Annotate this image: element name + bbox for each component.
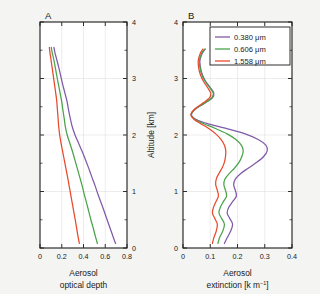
y-tick-label: 0 (174, 244, 178, 253)
shared-altitude-axis-label: Altitude [km] (146, 112, 156, 158)
y-tick-label: 4 (174, 18, 178, 27)
x-axis-label-bracket: ] (266, 280, 268, 290)
x-tick-label: 0 (38, 252, 42, 261)
x-tick-label: 0.6 (100, 252, 110, 261)
y-tick-label: 3 (174, 74, 178, 83)
y-axis-label: Altitude [km] (146, 112, 156, 158)
x-axis-label-line2: extinction [k m−1] (206, 280, 268, 290)
x-tick-label: 0 (181, 252, 185, 261)
y-tick-label: 3 (132, 74, 136, 83)
aerosol-profile-figure: 00.20.40.60.801234AAerosoloptical depth … (0, 0, 320, 294)
panel-label-b: B (188, 10, 194, 21)
x-axis-label-line2: optical depth (60, 280, 108, 290)
x-tick-label: 0.8 (122, 252, 132, 261)
x-axis-label-line1: Aerosol (223, 268, 252, 278)
x-axis-label-text: extinction [k m (206, 280, 260, 290)
y-tick-label: 2 (132, 131, 136, 140)
x-axis-label-line1: Aerosol (69, 268, 98, 278)
x-tick-label: 0.1 (205, 252, 215, 261)
y-tick-label: 2 (174, 131, 178, 140)
legend: 0.380 μm0.606 μm1.558 μm (210, 27, 290, 66)
y-tick-label: 1 (132, 187, 136, 196)
panel-a-optical-depth: 00.20.40.60.801234AAerosoloptical depth (38, 10, 136, 290)
legend-label-2: 0.606 μm (234, 45, 266, 54)
x-tick-label: 0.2 (233, 252, 243, 261)
legend-label-3: 1.558 μm (234, 57, 266, 66)
panel-label-a: A (45, 10, 52, 21)
x-tick-label: 0.2 (57, 252, 67, 261)
x-tick-label: 0.3 (260, 252, 270, 261)
figure-canvas: 00.20.40.60.801234AAerosoloptical depth … (0, 0, 320, 294)
y-tick-label: 4 (132, 18, 136, 27)
y-tick-label: 0 (132, 244, 136, 253)
legend-label-1: 0.380 μm (234, 33, 266, 42)
x-tick-label: 0.4 (79, 252, 89, 261)
x-tick-label: 0.4 (287, 252, 297, 261)
y-tick-label: 1 (174, 187, 178, 196)
